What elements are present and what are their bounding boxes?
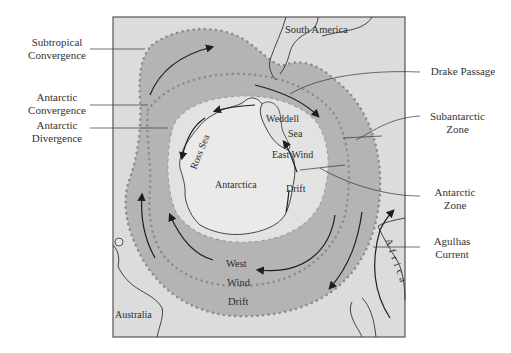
label-east-drift: Drift [286, 183, 306, 194]
label-sea: Sea [288, 128, 303, 139]
callout-antarctic-zone: Antarctic Zone [420, 186, 490, 212]
callout-drake-passage: Drake Passage [418, 65, 508, 78]
label-west-drift: Drift [228, 296, 248, 307]
label-antarctica: Antarctica [215, 179, 257, 190]
callout-antarctic-convergence: Antarctic Convergence [22, 91, 92, 117]
label-weddell: Weddell [266, 113, 299, 124]
callout-subantarctic-zone: Subantarctic Zone [420, 110, 495, 136]
label-wind: Wind [227, 277, 251, 288]
label-australia: Australia [115, 309, 152, 320]
callout-agulhas-current: Agulhas Current [420, 235, 484, 261]
label-west: West [226, 258, 247, 269]
tasmania-island [115, 238, 123, 246]
label-south-america: South America [285, 24, 348, 35]
callout-subtropical-convergence: Subtropical Convergence [22, 36, 92, 62]
callout-antarctic-divergence: Antarctic Divergence [24, 119, 90, 145]
label-east-wind: East Wind [272, 149, 313, 160]
